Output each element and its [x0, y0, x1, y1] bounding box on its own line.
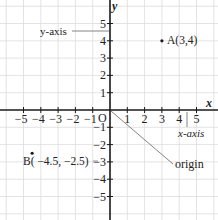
- y-tick-label: −3: [93, 155, 106, 169]
- y-tick-label: 5: [100, 17, 106, 31]
- point-a-marker: [160, 39, 163, 42]
- point-a-label: A(3,4): [167, 34, 198, 47]
- y-axis-label: y: [110, 0, 118, 13]
- x-tick-label: −4: [32, 112, 45, 126]
- y-tick-label: −5: [93, 190, 106, 204]
- x-tick-label: 5: [194, 112, 200, 126]
- coordinate-plane-svg: −5−4−3−2−112345−5−4−3−2−112345 y x O y-a…: [0, 0, 218, 220]
- annotation-leaders: [72, 31, 187, 164]
- x-tick-label: 4: [176, 112, 182, 126]
- x-tick-label: −3: [49, 112, 62, 126]
- y-tick-label: 2: [100, 68, 106, 82]
- coordinate-plane-diagram: −5−4−3−2−112345−5−4−3−2−112345 y x O y-a…: [0, 0, 218, 220]
- x-axis-label: x: [205, 96, 212, 110]
- origin-label: O: [98, 111, 107, 125]
- y-tick-label: 4: [100, 34, 106, 48]
- x-axis-annotation: x-axis: [177, 127, 204, 139]
- axes: [0, 0, 218, 220]
- origin-annotation: origin: [175, 157, 204, 171]
- y-tick-label: −2: [93, 138, 106, 152]
- y-tick-label: 3: [100, 51, 106, 65]
- x-tick-label: 2: [142, 112, 148, 126]
- y-axis-annotation: y-axis: [40, 25, 67, 37]
- x-tick-label: 1: [124, 112, 130, 126]
- y-tick-label: −4: [93, 172, 106, 186]
- point-b-label: B( −4.5, −2.5): [23, 155, 89, 168]
- x-tick-label: −5: [15, 112, 28, 126]
- y-tick-label: 1: [100, 86, 106, 100]
- x-tick-label: −2: [67, 112, 80, 126]
- x-tick-label: 3: [159, 112, 165, 126]
